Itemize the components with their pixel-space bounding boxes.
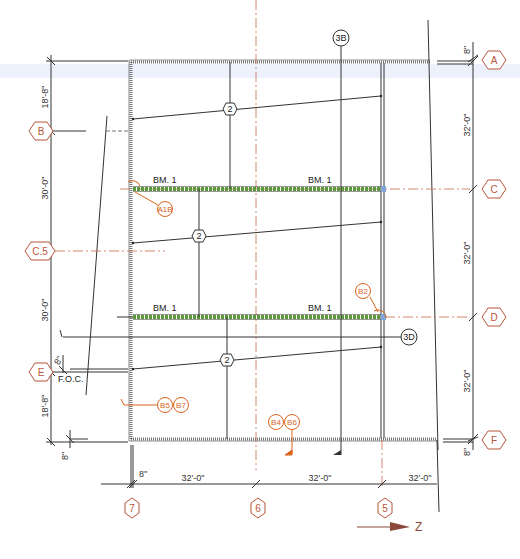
section-tag-3b: 3B — [335, 33, 346, 43]
dim-right-1: 8" — [462, 46, 472, 54]
dim-left-1: 18'-8" — [40, 86, 50, 109]
left-dimension-string — [46, 55, 128, 448]
grid-label-C5: C.5 — [32, 246, 48, 257]
slab-edge-line-left — [86, 116, 107, 395]
grid-label-5: 5 — [382, 503, 388, 514]
joist-tag-label-2: 2 — [196, 231, 201, 241]
joist-tag-label-3: 2 — [224, 355, 229, 365]
north-arrow-label: Z — [415, 520, 422, 534]
beam-label-3: BM. 1 — [153, 303, 177, 313]
dim-right-2: 32'-0" — [462, 114, 472, 137]
detail-tag-a1b: A1B — [157, 205, 172, 214]
grid-label-C: C — [490, 184, 497, 195]
north-arrow — [357, 522, 410, 531]
detail-tag-b2: B2 — [358, 287, 368, 296]
grid-label-F: F — [491, 435, 497, 446]
foc-label: F.O.C. — [58, 374, 84, 384]
framing-plan-drawing: A B C C.5 D E F 7 6 5 18'-8" 30'-0" 30'-… — [0, 0, 520, 559]
dim-left-5: 18'-8" — [40, 395, 50, 418]
detail-tag-b7: B7 — [176, 401, 186, 410]
slab-edge-line — [428, 20, 438, 450]
grid-label-B: B — [38, 126, 45, 137]
beam-label-4: BM. 1 — [308, 303, 332, 313]
grid-label-7: 7 — [129, 503, 135, 514]
beam-label-1: BM. 1 — [153, 175, 177, 185]
grid-label-6: 6 — [255, 503, 261, 514]
dim-left-3: 30'-0" — [40, 299, 50, 322]
grid-label-D: D — [490, 312, 497, 323]
dim-bottom-4: 32'-0" — [409, 473, 432, 483]
beam-label-2: BM. 1 — [308, 175, 332, 185]
dim-bottom-2: 32'-0" — [182, 473, 205, 483]
dim-right-3: 32'-0" — [462, 242, 472, 265]
detail-tag-b4: B4 — [271, 418, 281, 427]
beam-grid-c[interactable] — [133, 186, 386, 192]
section-tag-3d: 3D — [403, 332, 415, 342]
joist-lines — [132, 95, 382, 370]
detail-tag-b6: B6 — [287, 418, 297, 427]
grid-label-E: E — [38, 367, 45, 378]
building-walls — [129, 60, 437, 441]
highlight-band — [0, 64, 520, 78]
dim-bottom-3: 32'-0" — [309, 473, 332, 483]
detail-tag-b5: B5 — [160, 401, 170, 410]
dim-left-6: 8" — [60, 452, 70, 460]
grid-label-A: A — [491, 55, 498, 66]
dim-right-4: 32'-0" — [462, 370, 472, 393]
beam-grid-d[interactable] — [133, 314, 386, 320]
dim-left-2: 30'-0" — [40, 177, 50, 200]
joist-tag-label-1: 2 — [227, 104, 232, 114]
dim-bottom-1: 8" — [139, 469, 147, 479]
dim-right-5: 8" — [462, 448, 472, 456]
